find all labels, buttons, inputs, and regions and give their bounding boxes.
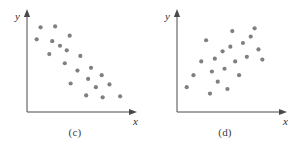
scatter-plot-figure: y x (c) y x (d) [0,0,301,155]
data-point [89,66,93,70]
panel-c-y-axis-arrowhead [24,9,30,17]
data-point [58,44,62,48]
data-point [228,45,232,49]
data-point [38,25,42,29]
panel-c-chart: y x [0,0,150,128]
data-point [107,82,111,86]
panel-c-plot-area: y x [0,0,150,128]
panel-c: y x (c) [0,0,150,155]
data-point [65,48,69,52]
data-point [35,37,39,41]
data-point [210,69,214,73]
data-point [53,24,57,28]
data-point [50,39,54,43]
data-point [199,59,203,63]
data-point [78,54,82,58]
data-point [241,41,245,45]
data-point [233,59,237,63]
data-point [204,38,208,42]
data-point [245,55,249,59]
data-point [185,85,189,89]
data-point [118,94,122,98]
panel-d-plot-area: y x [150,0,300,128]
data-point [230,29,234,33]
data-point [222,67,226,71]
data-point [94,85,98,89]
data-point [260,57,264,61]
data-point [63,61,67,65]
data-point [256,47,260,51]
data-point [216,80,220,84]
panel-d-y-axis-arrowhead [174,9,180,17]
data-point [249,34,253,38]
panel-c-axes [24,9,137,115]
panel-c-caption: (c) [0,126,150,138]
data-point [100,73,104,77]
data-point [253,26,257,30]
panel-d-axes [174,9,287,115]
panel-d: y x (d) [150,0,300,155]
data-point [86,77,90,81]
panel-d-caption: (d) [150,126,300,138]
data-point [213,57,217,61]
data-point [68,34,72,38]
data-point [225,87,229,91]
data-point [237,73,241,77]
data-point [208,92,212,96]
panel-d-data-points [185,26,265,96]
panel-c-y-axis-label: y [14,10,20,22]
data-point [75,69,79,73]
data-point [220,49,224,53]
data-point [101,95,105,99]
data-point [69,81,73,85]
panel-d-chart: y x [150,0,300,128]
data-point [47,52,51,56]
data-point [84,93,88,97]
data-point [191,73,195,77]
panel-d-y-axis-label: y [164,10,170,22]
panel-c-data-points [35,24,123,99]
